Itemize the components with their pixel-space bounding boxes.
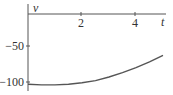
t-axis-label: t — [161, 15, 165, 29]
x-tick-label: 2 — [78, 16, 84, 30]
x-tick-label: 4 — [132, 16, 138, 30]
y-tick-label: −100 — [0, 75, 24, 89]
data-curve — [28, 55, 163, 85]
chart: v t 2 4 −50 −100 — [0, 0, 173, 95]
v-axis-label: v — [33, 1, 39, 15]
y-tick-label: −50 — [5, 39, 24, 53]
